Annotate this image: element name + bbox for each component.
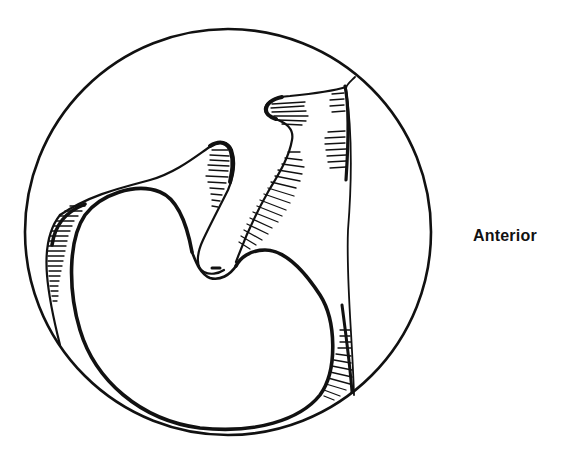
right-band-inner-edge bbox=[345, 86, 348, 180]
hatching-neck bbox=[239, 152, 304, 249]
hatching-left-band bbox=[48, 206, 85, 301]
inner-loop bbox=[72, 189, 333, 430]
hatching-middle-lobe bbox=[206, 150, 229, 207]
circular-frame bbox=[25, 29, 431, 435]
upper-hook bbox=[236, 87, 346, 262]
anterior-label: Anterior bbox=[473, 227, 537, 245]
hatching-upper-hook bbox=[271, 93, 346, 168]
middle-lobe bbox=[60, 143, 234, 274]
